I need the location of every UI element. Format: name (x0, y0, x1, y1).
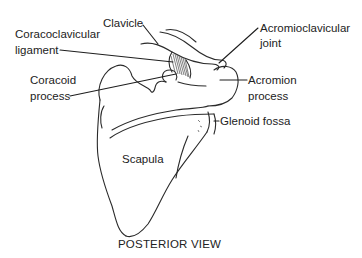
scapula-diagram: Clavicle Coracoclavicular ligament Corac… (0, 0, 362, 258)
label-scapula: Scapula (122, 153, 164, 165)
label-acromioclavicular-joint-1: Acromioclavicular (260, 22, 350, 34)
label-coracoclavicular-ligament-1: Coracoclavicular (15, 28, 100, 40)
label-coracoclavicular-ligament-2: ligament (15, 44, 59, 56)
coracoid-process-leader (70, 74, 176, 96)
label-glenoid-fossa: Glenoid fossa (220, 115, 291, 127)
clavicle-drawing (141, 30, 226, 70)
label-acromioclavicular-joint-2: joint (259, 37, 282, 49)
acromioclavicular-joint-leader (219, 28, 258, 63)
label-coracoid-process-2: process (30, 90, 71, 102)
label-acromion-process-2: process (248, 90, 289, 102)
scapula-drawing (97, 65, 238, 236)
coracoclavicular-ligament-leader (60, 50, 173, 62)
diagram-caption: POSTERIOR VIEW (118, 238, 221, 250)
label-acromion-process-1: Acromion (248, 74, 297, 86)
label-coracoid-process-1: Coracoid (30, 74, 76, 86)
clavicle-leader (143, 25, 158, 44)
label-clavicle: Clavicle (103, 17, 143, 29)
